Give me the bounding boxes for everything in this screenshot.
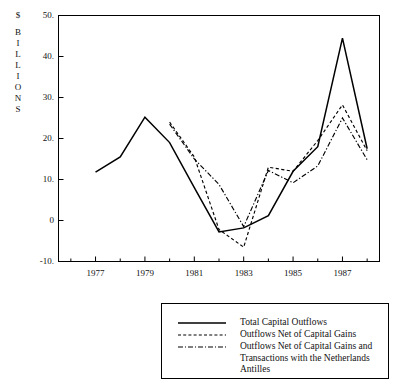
x-tick-label: 1977 xyxy=(79,268,113,278)
legend-label-0: Total Capital Outflows xyxy=(240,317,327,329)
x-tick-label: 1985 xyxy=(276,268,310,278)
y-tick-label: 20. xyxy=(28,133,54,143)
chart-figure: $BILLIONS 50.40.30.20.10.0-10. 197719791… xyxy=(0,0,400,388)
x-tick-label: 1983 xyxy=(227,268,261,278)
legend-line-sample-solid xyxy=(176,318,228,328)
x-tick-label: 1981 xyxy=(177,268,211,278)
legend-line-sample-dashed xyxy=(176,330,228,340)
x-tick-label: 1979 xyxy=(128,268,162,278)
y-tick-label: 0 xyxy=(28,215,54,225)
plot-frame xyxy=(59,16,380,262)
y-tick-label: 50. xyxy=(28,10,54,20)
legend-label-1: Outflows Net of Capital Gains xyxy=(240,329,356,341)
y-tick-label: -10. xyxy=(28,256,54,266)
y-tick-label: 30. xyxy=(28,92,54,102)
legend-line-sample-dashdot xyxy=(176,342,228,352)
chart-legend: Total Capital Outflows Outflows Net of C… xyxy=(161,303,389,379)
x-tick-label: 1987 xyxy=(325,268,359,278)
y-tick-label: 40. xyxy=(28,51,54,61)
y-tick-label: 10. xyxy=(28,174,54,184)
legend-label-2: Outflows Net of Capital Gains and Transa… xyxy=(240,341,400,376)
